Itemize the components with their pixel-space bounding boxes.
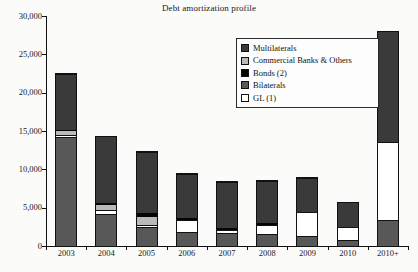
y-axis-labels: 05,00010,00015,00020,00025,00030,000: [0, 16, 42, 247]
legend-swatch-bonds: [241, 69, 249, 77]
legend-item[interactable]: Bilaterals: [241, 79, 374, 91]
legend-item[interactable]: GL (1): [241, 92, 374, 104]
legend-item-label: GL (1): [253, 94, 276, 103]
chart-legend: MultilateralsCommercial Banks & OthersBo…: [236, 38, 379, 108]
legend-item-label: Bilaterals: [253, 81, 286, 90]
legend-item[interactable]: Commercial Banks & Others: [241, 54, 374, 66]
y-tick-label: 25,000: [2, 50, 42, 59]
legend-item-label: Multilaterals: [253, 44, 296, 53]
y-tick-label: 10,000: [2, 165, 42, 174]
y-tick-label: 20,000: [2, 88, 42, 97]
y-tick-label: 5,000: [2, 203, 42, 212]
y-tick-label: 15,000: [2, 127, 42, 136]
legend-swatch-commercial: [241, 57, 249, 65]
x-tick-label: 2010+: [363, 249, 413, 258]
legend-item-label: Commercial Banks & Others: [253, 56, 352, 65]
legend-swatch-multilaterals: [241, 44, 249, 52]
legend-swatch-bilaterals: [241, 81, 249, 89]
legend-item[interactable]: Bonds (2): [241, 67, 374, 79]
y-tick-label: 30,000: [2, 12, 42, 21]
y-tick-label: 0: [2, 242, 42, 251]
legend-item-label: Bonds (2): [253, 69, 287, 78]
chart-figure: Debt amortization profile 05,00010,00015…: [0, 0, 418, 272]
legend-item[interactable]: Multilaterals: [241, 42, 374, 54]
legend-swatch-gl: [241, 94, 249, 102]
